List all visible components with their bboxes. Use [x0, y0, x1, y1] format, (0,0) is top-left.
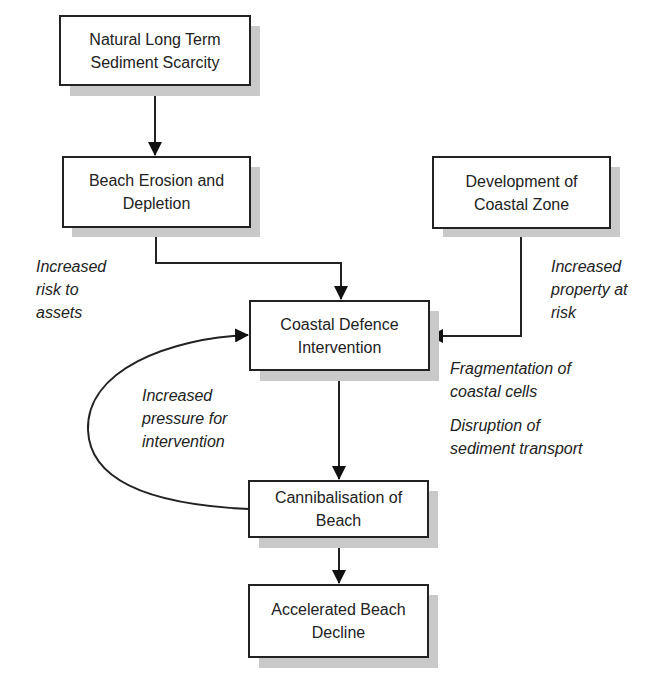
- node-label: Beach Erosion and: [89, 169, 224, 192]
- node-development-coastal-zone: Development of Coastal Zone: [432, 156, 611, 229]
- node-accelerated-beach-decline: Accelerated Beach Decline: [248, 584, 429, 658]
- node-label: Beach: [316, 509, 361, 532]
- node-coastal-defence-intervention: Coastal Defence Intervention: [249, 300, 430, 371]
- annotation-increased-risk-to-assets: Increased risk to assets: [36, 255, 106, 324]
- annotation-line: intervention: [142, 430, 227, 453]
- annotation-line: risk: [551, 301, 627, 324]
- node-label: Natural Long Term: [89, 28, 220, 51]
- node-label: Intervention: [298, 336, 382, 359]
- annotation-line: Increased: [142, 384, 227, 407]
- annotation-increased-pressure-for-intervention: Increased pressure for intervention: [142, 384, 227, 453]
- node-cannibalisation-of-beach: Cannibalisation of Beach: [248, 480, 429, 538]
- node-label: Cannibalisation of: [275, 486, 402, 509]
- annotation-line: pressure for: [142, 407, 227, 430]
- node-label: Development of: [465, 170, 577, 193]
- node-label: Depletion: [123, 192, 191, 215]
- node-label: Coastal Zone: [474, 193, 569, 216]
- annotation-increased-property-at-risk: Increased property at risk: [551, 255, 627, 324]
- annotation-fragmentation-of-coastal-cells: Fragmentation of coastal cells: [450, 357, 571, 403]
- annotation-line: sediment transport: [450, 437, 583, 460]
- annotation-disruption-of-sediment-transport: Disruption of sediment transport: [450, 414, 583, 460]
- annotation-line: Increased: [551, 255, 627, 278]
- annotation-line: assets: [36, 301, 106, 324]
- node-natural-sediment-scarcity: Natural Long Term Sediment Scarcity: [59, 15, 251, 86]
- node-label: Coastal Defence: [280, 313, 398, 336]
- arrow-erosion-to-defence: [156, 227, 341, 299]
- node-label: Decline: [312, 621, 365, 644]
- annotation-line: risk to: [36, 278, 106, 301]
- annotation-line: coastal cells: [450, 380, 571, 403]
- annotation-line: Increased: [36, 255, 106, 278]
- node-label: Sediment Scarcity: [91, 51, 220, 74]
- arrow-development-to-defence: [430, 228, 521, 336]
- node-label: Accelerated Beach: [271, 598, 405, 621]
- node-beach-erosion-depletion: Beach Erosion and Depletion: [62, 156, 251, 228]
- annotation-line: Fragmentation of: [450, 357, 571, 380]
- annotation-line: Disruption of: [450, 414, 583, 437]
- annotation-line: property at: [551, 278, 627, 301]
